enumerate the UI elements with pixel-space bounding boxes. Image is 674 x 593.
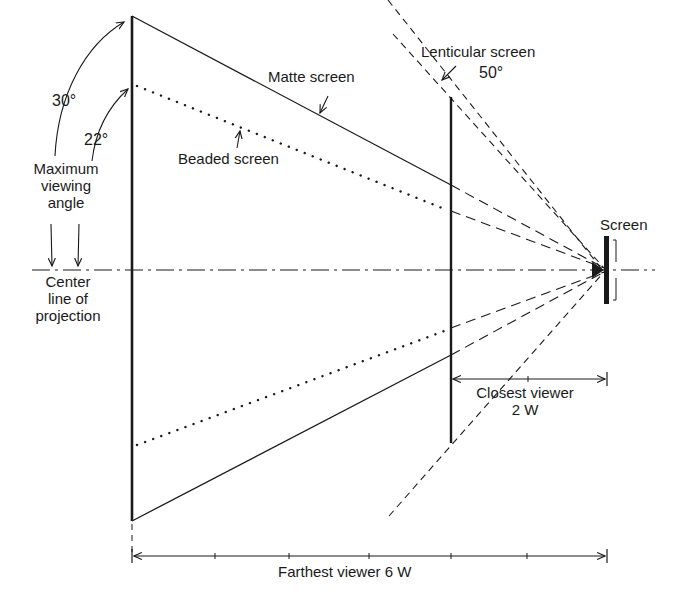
lenticular-pointer-arrow [442, 66, 456, 80]
matte-extension-top [451, 185, 604, 268]
matte-extension-bottom [451, 272, 604, 355]
label-center-l2: line of [18, 290, 118, 307]
label-center-l1: Center [18, 273, 118, 290]
projection-screen [604, 236, 609, 304]
beaded-boundary-bottom [137, 330, 447, 445]
label-lenticular-screen: Lenticular screen [421, 43, 535, 60]
label-closest-l2: 2 W [455, 401, 595, 418]
label-matte-screen: Matte screen [268, 68, 355, 85]
beaded-extension-top [451, 211, 604, 268]
label-max-viewing-angle: Maximum viewing angle [18, 160, 114, 211]
max-angle-arrow-2 [78, 224, 79, 266]
label-closest-viewer: Closest viewer 2 W [455, 384, 595, 418]
label-screen: Screen [600, 216, 648, 233]
label-max-l2: viewing [18, 177, 114, 194]
label-max-l1: Maximum [18, 160, 114, 177]
beaded-boundary-top [137, 86, 447, 210]
label-farthest-viewer: Farthest viewer 6 W [278, 563, 411, 580]
label-beaded-screen: Beaded screen [178, 150, 279, 167]
label-22deg: 22° [84, 131, 108, 148]
beaded-pointer-arrow [237, 131, 240, 148]
label-max-l3: angle [18, 194, 114, 211]
matte-boundary-bottom [132, 355, 451, 521]
max-angle-arrow-1 [51, 224, 52, 266]
screen-bracket-top [613, 240, 616, 262]
label-center-line: Center line of projection [18, 273, 118, 324]
beaded-extension-bottom [451, 272, 604, 328]
matte-pointer-arrow [320, 96, 328, 113]
lenticular-boundary-bottom [388, 0, 604, 272]
label-closest-l1: Closest viewer [455, 384, 595, 401]
label-30deg: 30° [52, 92, 76, 109]
label-center-l3: projection [18, 307, 118, 324]
arc-22deg [92, 89, 128, 161]
label-50deg: 50° [479, 64, 503, 81]
screen-bracket-bottom [613, 278, 616, 300]
